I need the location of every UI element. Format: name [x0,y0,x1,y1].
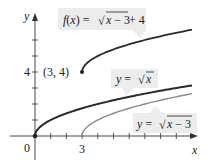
y-tick-label-4: 4 [24,65,30,79]
origin-dot [33,134,38,139]
sqrt-x-minus-3-label-pointer [150,106,162,113]
radical-sign-icon: √ [98,14,105,28]
f-label-pointer [132,30,146,38]
f-label-lhs: f(x) = [63,13,90,27]
x-axis-label: x [191,143,198,157]
curve-f [82,30,192,72]
sqrt-x-minus-3-label-radicand: x − 3 [166,117,191,131]
sqrt-x-label-radicand: x [145,72,152,86]
sqrt-x-minus-3-label: y = √ x − 3 [136,116,192,132]
point-label: (3, 4) [43,65,69,79]
origin-label: 0 [24,141,30,155]
sqrt-x-minus-3-label-lhs: y = [136,117,152,131]
x-axis-arrow-icon [190,133,198,139]
x-tick-label-3: 3 [79,142,85,156]
radical-sign-icon: √ [159,118,166,132]
f-label-radicand: x − 3 [105,13,130,27]
sqrt-x-label-pointer [122,88,134,96]
point-3-4-dot [80,70,84,74]
sqrt-x-label-lhs: y = [115,72,131,86]
f-label: f(x) = √ x − 3 + 4 [63,12,145,28]
y-axis-arrow-icon [32,13,38,21]
f-label-tail: + 4 [129,13,145,27]
graph: y x 0 3 4 (3, 4) f(x) = √ x − 3 + 4 y = … [0,0,206,165]
radical-sign-icon: √ [138,73,145,87]
y-axis-label: y [23,9,30,23]
text-labels: y x 0 3 4 (3, 4) f(x) = √ x − 3 + 4 y = … [23,9,198,157]
